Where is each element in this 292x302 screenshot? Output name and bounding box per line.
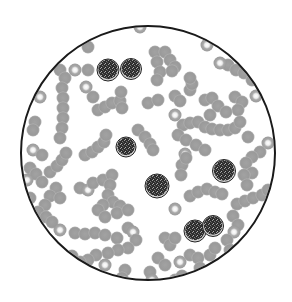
white-blood-cell — [203, 216, 224, 237]
red-blood-cell — [100, 129, 113, 142]
red-blood-cell — [242, 131, 255, 144]
red-blood-cell — [204, 109, 217, 122]
white-blood-cell — [116, 137, 136, 157]
red-blood-cell — [159, 259, 172, 272]
red-blood-cell — [216, 188, 229, 201]
red-blood-cell — [199, 144, 212, 157]
red-blood-cell — [180, 152, 193, 165]
red-blood-cell — [82, 64, 95, 77]
pale-red-blood-cell — [169, 203, 182, 216]
red-blood-cell — [27, 124, 40, 137]
red-blood-cell — [147, 144, 160, 157]
red-blood-cell — [99, 229, 112, 242]
red-blood-cell — [232, 104, 245, 117]
red-blood-cell — [60, 147, 73, 160]
red-blood-cell — [184, 72, 197, 85]
red-blood-cell — [122, 204, 135, 217]
blood-smear-diagram — [0, 0, 292, 302]
white-blood-cell — [145, 174, 169, 198]
red-blood-cell — [151, 74, 164, 87]
white-blood-cell — [213, 160, 236, 183]
microscope-field-of-view — [0, 0, 292, 302]
red-blood-cell — [166, 65, 179, 78]
red-blood-cell — [174, 95, 187, 108]
pale-red-blood-cell — [69, 64, 82, 77]
red-blood-cell — [99, 211, 112, 224]
red-blood-cell — [175, 169, 188, 182]
pale-red-blood-cell — [214, 57, 227, 70]
white-blood-cell — [97, 59, 119, 81]
red-blood-cell — [234, 116, 247, 129]
red-blood-cell — [220, 106, 233, 119]
red-blood-cell — [102, 247, 115, 260]
red-blood-cell — [241, 179, 254, 192]
red-blood-cell — [115, 86, 128, 99]
white-blood-cell — [121, 59, 142, 80]
red-blood-cell — [152, 94, 165, 107]
red-blood-cell — [111, 232, 124, 245]
red-blood-cell — [54, 132, 67, 145]
red-blood-cell — [169, 232, 182, 245]
red-blood-cell — [87, 91, 100, 104]
pale-red-blood-cell — [54, 224, 67, 237]
red-blood-cell — [54, 192, 67, 205]
red-blood-cell — [209, 242, 222, 255]
pale-red-blood-cell — [99, 259, 112, 272]
red-blood-cell — [111, 207, 124, 220]
red-blood-cell — [36, 149, 49, 162]
red-blood-cell — [116, 102, 129, 115]
